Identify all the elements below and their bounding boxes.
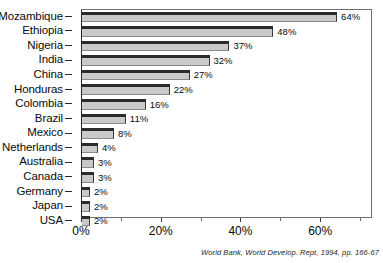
bar-row: 32% (82, 54, 371, 69)
category-label: Mexico (27, 127, 63, 139)
category-tick-mark (65, 103, 72, 104)
bar-value-label: 4% (102, 142, 116, 153)
category-label: USA (40, 215, 63, 227)
bar-top-face (82, 41, 229, 44)
bar (82, 55, 210, 66)
category-axis-row: Netherlands (0, 140, 72, 155)
bar-row: 2% (82, 200, 371, 215)
x-axis-minor-tick (280, 218, 281, 221)
x-axis-ticks (81, 218, 372, 223)
category-tick-mark (65, 74, 72, 75)
bar-top-face (82, 157, 94, 160)
bar-top-face (82, 70, 190, 73)
category-tick-mark (65, 220, 72, 221)
bar-top-face (82, 143, 98, 146)
bar-top-face (82, 201, 90, 204)
bar-value-label: 2% (94, 201, 108, 212)
x-axis-tick (161, 218, 162, 222)
bar (82, 128, 114, 139)
x-axis-tick-label: 40% (228, 224, 252, 238)
category-label: India (39, 54, 63, 66)
bar-row: 48% (82, 25, 371, 40)
bar-value-label: 64% (341, 11, 360, 22)
bar (82, 201, 90, 212)
bar-top-face (82, 99, 146, 102)
category-axis-row: Mozambique (0, 9, 72, 24)
x-axis-tick (240, 218, 241, 222)
category-axis-row: Japan (0, 199, 72, 214)
bar-top-face (82, 26, 273, 29)
bar-row: 37% (82, 39, 371, 54)
bar-top-face (82, 187, 90, 190)
x-axis-labels: 0%20%40%60% (81, 224, 372, 240)
bar-top-face (82, 128, 114, 131)
bar-row: 16% (82, 98, 371, 113)
bar (82, 143, 98, 154)
category-label: Australia (19, 156, 63, 168)
bar (82, 41, 229, 52)
category-tick-mark (65, 30, 72, 31)
category-axis-row: Colombia (0, 97, 72, 112)
bar-row: 3% (82, 156, 371, 171)
category-label: Honduras (14, 84, 63, 96)
bar-top-face (82, 172, 94, 175)
category-label: Ethiopia (22, 25, 63, 37)
bar-row: 64% (82, 10, 371, 25)
category-tick-mark (65, 16, 72, 17)
bar-row: 8% (82, 127, 371, 142)
bar (82, 157, 94, 168)
bar (82, 99, 146, 110)
bar-row: 2% (82, 185, 371, 200)
category-axis-row: Australia (0, 155, 72, 170)
bar-top-face (82, 12, 337, 15)
category-label: Brazil (35, 113, 63, 125)
bar-value-label: 2% (94, 186, 108, 197)
category-label: Japan (32, 200, 63, 212)
bar (82, 114, 126, 125)
source-note: World Bank, World Develop. Rept, 1994, p… (201, 248, 379, 257)
x-axis-minor-tick (121, 218, 122, 221)
bar-value-label: 48% (277, 26, 296, 37)
category-label: China (33, 69, 63, 81)
bar-value-label: 37% (233, 40, 252, 51)
bar-value-label: 11% (130, 113, 148, 124)
bar-value-label: 22% (174, 84, 193, 95)
bar-top-face (82, 114, 126, 117)
category-tick-mark (65, 60, 72, 61)
x-axis-minor-tick (201, 218, 202, 221)
category-axis-row: Nigeria (0, 38, 72, 53)
category-tick-mark (65, 89, 72, 90)
category-label: Germany (16, 186, 63, 198)
category-axis-row: USA (0, 213, 72, 228)
bar-value-label: 32% (214, 55, 233, 66)
category-label: Nigeria (27, 40, 63, 52)
bar-value-label: 27% (194, 69, 213, 80)
bar-value-label: 8% (118, 128, 132, 139)
bars-layer: 64%48%37%32%27%22%16%11%8%4%3%3%2%2%2% (82, 10, 371, 217)
bar (82, 12, 337, 23)
bar (82, 84, 170, 95)
category-axis-row: Germany (0, 184, 72, 199)
category-tick-mark (65, 191, 72, 192)
category-axis-row: India (0, 53, 72, 68)
x-axis-tick (320, 218, 321, 222)
category-axis: MozambiqueEthiopiaNigeriaIndiaChinaHondu… (0, 9, 72, 218)
category-tick-mark (65, 176, 72, 177)
bar-row: 11% (82, 112, 371, 127)
bar-row: 22% (82, 83, 371, 98)
x-axis-minor-tick (360, 218, 361, 221)
category-axis-row: Brazil (0, 111, 72, 126)
category-label: Netherlands (2, 142, 63, 154)
category-tick-mark (65, 206, 72, 207)
bar-row: 3% (82, 171, 371, 186)
category-tick-mark (65, 118, 72, 119)
category-tick-mark (65, 45, 72, 46)
bar-top-face (82, 55, 210, 58)
category-tick-mark (65, 133, 72, 134)
bar (82, 70, 190, 81)
bar (82, 172, 94, 183)
bar-value-label: 3% (98, 157, 112, 168)
bar (82, 26, 273, 37)
plot-area: 64%48%37%32%27%22%16%11%8%4%3%3%2%2%2% (81, 9, 372, 218)
category-label: Canada (23, 171, 63, 183)
